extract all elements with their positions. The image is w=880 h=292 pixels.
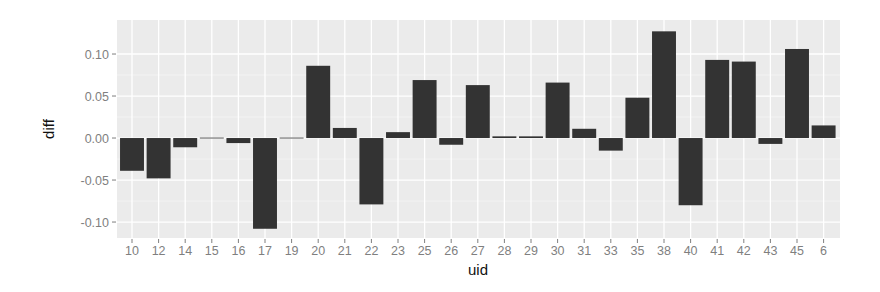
x-tick-label: 40 bbox=[684, 244, 698, 258]
bar-25 bbox=[413, 80, 437, 138]
bar-40 bbox=[679, 138, 703, 205]
bar-31 bbox=[572, 129, 596, 138]
x-tick-label: 29 bbox=[524, 244, 538, 258]
bar-21 bbox=[333, 128, 357, 138]
y-axis: 0.100.050.00-0.05-0.10 bbox=[81, 48, 117, 230]
bar-42 bbox=[732, 62, 756, 138]
x-axis-title: uid bbox=[468, 261, 488, 278]
x-tick-label: 26 bbox=[444, 244, 458, 258]
x-tick-label: 43 bbox=[763, 244, 777, 258]
x-tick-label: 30 bbox=[551, 244, 565, 258]
x-tick-label: 35 bbox=[630, 244, 644, 258]
x-tick-label: 12 bbox=[152, 244, 166, 258]
bar-19 bbox=[280, 138, 304, 139]
bar-20 bbox=[306, 66, 330, 138]
y-tick-label: 0.10 bbox=[85, 48, 109, 62]
bar-17 bbox=[253, 138, 277, 229]
x-tick-label: 6 bbox=[820, 244, 827, 258]
x-tick-label: 21 bbox=[338, 244, 352, 258]
y-tick-label: 0.05 bbox=[85, 90, 109, 104]
y-tick-label: -0.10 bbox=[81, 216, 110, 230]
x-tick-label: 42 bbox=[737, 244, 751, 258]
bar-chart: 0.100.050.00-0.05-0.10 10121415161719202… bbox=[0, 0, 880, 292]
bar-15 bbox=[200, 138, 224, 139]
x-tick-label: 20 bbox=[311, 244, 325, 258]
bar-43 bbox=[758, 138, 782, 144]
x-tick-label: 10 bbox=[125, 244, 139, 258]
bar-12 bbox=[147, 138, 171, 178]
x-tick-label: 28 bbox=[497, 244, 511, 258]
x-tick-label: 45 bbox=[790, 244, 804, 258]
x-tick-label: 14 bbox=[178, 244, 192, 258]
bar-16 bbox=[226, 138, 250, 143]
y-tick-label: -0.05 bbox=[81, 174, 110, 188]
x-tick-label: 17 bbox=[258, 244, 272, 258]
bar-27 bbox=[466, 85, 490, 138]
x-tick-label: 22 bbox=[364, 244, 378, 258]
y-tick-label: 0.00 bbox=[85, 132, 109, 146]
bar-35 bbox=[625, 98, 649, 138]
bar-10 bbox=[120, 138, 144, 171]
x-tick-label: 41 bbox=[710, 244, 724, 258]
bar-29 bbox=[519, 136, 543, 138]
bar-23 bbox=[386, 132, 410, 138]
x-axis: 1012141516171920212223252627282930313335… bbox=[125, 239, 827, 258]
x-tick-label: 19 bbox=[285, 244, 299, 258]
x-tick-label: 33 bbox=[604, 244, 618, 258]
bar-26 bbox=[439, 138, 463, 145]
bar-6 bbox=[812, 125, 836, 138]
x-tick-label: 27 bbox=[471, 244, 485, 258]
x-tick-label: 38 bbox=[657, 244, 671, 258]
bar-28 bbox=[492, 136, 516, 138]
x-tick-label: 15 bbox=[205, 244, 219, 258]
bar-41 bbox=[705, 60, 729, 138]
y-axis-title: diff bbox=[40, 118, 57, 139]
bar-30 bbox=[546, 83, 570, 138]
bar-14 bbox=[173, 138, 197, 147]
x-tick-label: 31 bbox=[577, 244, 591, 258]
bar-45 bbox=[785, 49, 809, 138]
bar-33 bbox=[599, 138, 623, 151]
x-tick-label: 23 bbox=[391, 244, 405, 258]
bar-22 bbox=[359, 138, 383, 204]
x-tick-label: 25 bbox=[418, 244, 432, 258]
x-tick-label: 16 bbox=[231, 244, 245, 258]
bar-38 bbox=[652, 31, 676, 138]
